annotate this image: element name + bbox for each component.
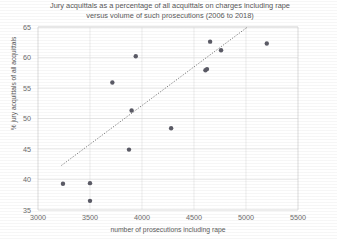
data-point xyxy=(134,54,138,58)
data-point xyxy=(127,147,131,151)
data-point xyxy=(169,126,173,130)
x-tick-label: 3000 xyxy=(18,213,58,222)
x-tick-label: 4000 xyxy=(122,213,162,222)
data-point xyxy=(110,80,114,84)
data-point xyxy=(88,199,92,203)
x-tick-label: 3500 xyxy=(70,213,110,222)
y-tick-label: 45 xyxy=(5,145,31,154)
y-tick-label: 50 xyxy=(5,114,31,123)
y-tick-label: 60 xyxy=(5,53,31,62)
data-point xyxy=(129,108,133,112)
data-point xyxy=(205,67,209,71)
y-tick-label: 55 xyxy=(5,84,31,93)
data-point xyxy=(208,39,212,43)
data-point xyxy=(219,48,223,52)
plot-area xyxy=(0,0,337,239)
data-point xyxy=(265,41,269,45)
data-point xyxy=(88,181,92,185)
scatter-chart: Jury acquittals as a percentage of all a… xyxy=(0,0,337,239)
gridlines xyxy=(38,27,298,210)
x-tick-label: 5500 xyxy=(278,213,318,222)
x-tick-label: 5000 xyxy=(226,213,266,222)
y-tick-label: 40 xyxy=(5,175,31,184)
data-points xyxy=(61,39,269,203)
trendline xyxy=(61,27,247,165)
y-tick-label: 65 xyxy=(5,23,31,32)
data-point xyxy=(61,182,65,186)
x-tick-label: 4500 xyxy=(174,213,214,222)
